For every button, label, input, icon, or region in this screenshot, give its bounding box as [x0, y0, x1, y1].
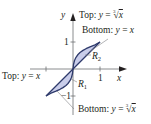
y-tick-label-neg1: −1	[61, 91, 71, 101]
region-label-r2: R2	[92, 51, 101, 64]
annotation-rhs: x	[130, 25, 134, 35]
region-label-r1: R1	[78, 79, 87, 92]
annotation-eq: =	[26, 71, 36, 81]
y-axis-label: y	[61, 10, 65, 20]
annotation-top-cube-root: Top: y = 3√x	[79, 10, 123, 22]
radicand: x	[132, 104, 136, 114]
leader-r1	[71, 79, 77, 82]
y-tick-label-1: 1	[64, 37, 69, 47]
annotation-eq: =	[103, 10, 113, 20]
annotation-prefix: Bottom:	[82, 25, 116, 35]
annotation-bottom-cube-root: Bottom: y = 3√x	[78, 104, 136, 116]
root-index: 3	[126, 103, 129, 108]
x-tick-label-1: 1	[98, 73, 103, 83]
annotation-prefix: Top:	[2, 71, 22, 81]
annotation-rhs: x	[36, 71, 40, 81]
x-axis-label: x	[117, 73, 121, 83]
annotation-eq: =	[116, 104, 126, 114]
y-axis-arrow-icon	[70, 13, 75, 21]
x-axis-arrow-icon	[119, 66, 127, 71]
region-subscript: 2	[98, 55, 101, 62]
annotation-top-identity: Top: y = x	[2, 71, 40, 81]
region-subscript: 1	[84, 83, 87, 90]
annotation-eq: =	[120, 25, 130, 35]
radicand: x	[119, 10, 123, 20]
annotation-prefix: Top:	[79, 10, 99, 20]
annotation-prefix: Bottom:	[78, 104, 112, 114]
annotation-bottom-identity: Bottom: y = x	[82, 25, 134, 35]
